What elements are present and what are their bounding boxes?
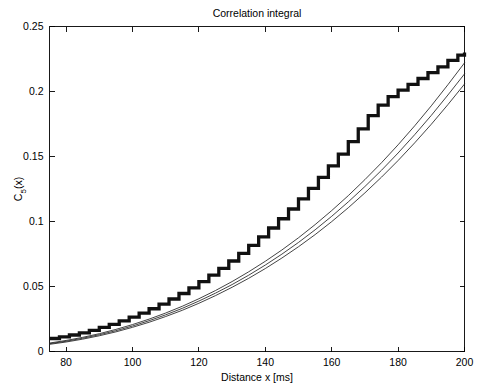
series-line-3: [50, 84, 465, 344]
y-tick-label-0.25: 0.25: [23, 20, 44, 32]
series-line-1: [50, 63, 465, 343]
y-axis-tick-labels: 00.050.10.150.20.25: [23, 20, 44, 357]
chart-title: Correlation integral: [213, 7, 302, 19]
x-axis-label-group: Distance x [ms]: [221, 371, 293, 383]
x-axis-label: Distance x [ms]: [221, 371, 293, 383]
axes-box: [50, 27, 465, 352]
x-tick-label-140: 140: [257, 356, 275, 368]
x-axis-tick-labels: 80100120140160180200: [60, 356, 473, 368]
y-tick-label-0: 0: [38, 345, 44, 357]
y-tick-label-0.1: 0.1: [29, 215, 44, 227]
y-tick-label-0.2: 0.2: [29, 85, 44, 97]
x-tick-label-180: 180: [389, 356, 407, 368]
y-axis-label-argument: (x): [12, 177, 24, 189]
data-series-group: [50, 53, 465, 345]
x-tick-label-200: 200: [456, 356, 474, 368]
plot-title-group: Correlation integral: [213, 7, 302, 19]
series-line-0: [50, 53, 465, 339]
x-axis-ticks: [66, 27, 464, 352]
figure-canvas: Correlation integral 8010012014016018020…: [0, 0, 485, 390]
y-tick-label-0.15: 0.15: [23, 150, 44, 162]
plot-frame: [50, 27, 465, 352]
y-axis-label: C5(x): [12, 177, 28, 201]
y-tick-label-0.05: 0.05: [23, 280, 44, 292]
y-axis-ticks: [50, 27, 465, 352]
x-tick-label-160: 160: [323, 356, 341, 368]
x-tick-label-120: 120: [190, 356, 208, 368]
correlation-integral-chart: Correlation integral 8010012014016018020…: [0, 0, 485, 390]
x-tick-label-80: 80: [60, 356, 72, 368]
y-axis-label-group: C5(x): [12, 177, 28, 201]
series-line-2: [50, 74, 465, 344]
x-tick-label-100: 100: [124, 356, 142, 368]
